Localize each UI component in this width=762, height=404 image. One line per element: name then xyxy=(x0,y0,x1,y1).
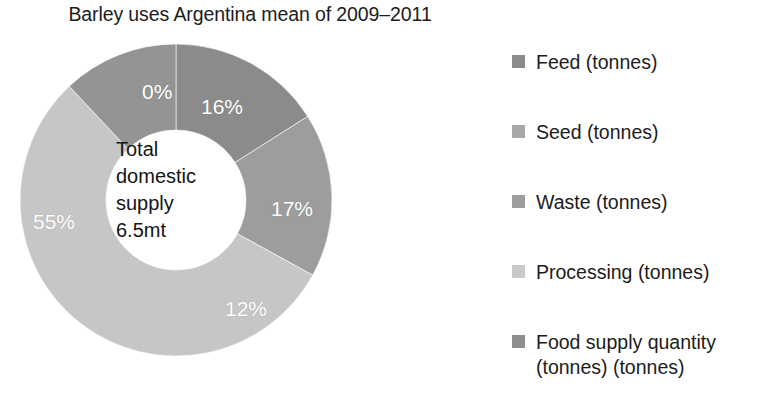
legend-item-waste[interactable]: Waste (tonnes) xyxy=(512,190,668,215)
legend-swatch-icon-processing xyxy=(512,265,525,278)
legend-label-seed: Seed (tonnes) xyxy=(536,120,659,145)
donut-slice-group xyxy=(20,44,332,356)
legend-swatch-icon-foodsupply xyxy=(512,335,525,348)
page-title: Barley uses Argentina mean of 2009–2011 xyxy=(0,2,500,26)
legend-label-foodsupply: Food supply quantity (tonnes) (tonnes) xyxy=(536,330,716,380)
legend-item-processing[interactable]: Processing (tonnes) xyxy=(512,260,709,285)
chart-page: Barley uses Argentina mean of 2009–2011 … xyxy=(0,0,762,404)
legend-swatch-icon-waste xyxy=(512,195,525,208)
donut-chart: Total domestic supply 6.5mt 0% 16% 17% 1… xyxy=(20,44,332,356)
legend-label-waste: Waste (tonnes) xyxy=(536,190,668,215)
legend-label-feed: Feed (tonnes) xyxy=(536,50,657,75)
donut-svg xyxy=(20,44,332,356)
legend-swatch-icon-feed xyxy=(512,55,525,68)
legend-swatch-icon-seed xyxy=(512,125,525,138)
legend-item-foodsupply[interactable]: Food supply quantity (tonnes) (tonnes) xyxy=(512,330,716,380)
legend-label-processing: Processing (tonnes) xyxy=(536,260,709,285)
legend-item-seed[interactable]: Seed (tonnes) xyxy=(512,120,659,145)
legend-item-feed[interactable]: Feed (tonnes) xyxy=(512,50,657,75)
legend: Feed (tonnes) Seed (tonnes) Waste (tonne… xyxy=(512,44,762,384)
